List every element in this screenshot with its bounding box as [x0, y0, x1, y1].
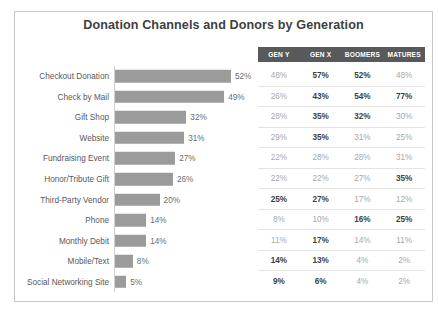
bar-value-label: 14%	[150, 236, 166, 245]
category-label: Gift Shop	[75, 113, 109, 122]
table-cell: 11%	[258, 236, 300, 245]
table-cell: 14%	[258, 256, 300, 265]
bar	[115, 111, 186, 124]
table-row: 8%10%16%25%	[258, 210, 425, 231]
bar	[115, 234, 146, 247]
table-cell: 11%	[383, 236, 425, 245]
category-label: Website	[80, 133, 109, 142]
table-cell: 28%	[342, 153, 384, 162]
table-cell: 25%	[383, 133, 425, 142]
category-label: Fundraising Event	[43, 154, 109, 163]
bar	[115, 214, 146, 227]
table-row: 22%28%28%31%	[258, 148, 425, 169]
chart-row: Phone14%	[15, 210, 255, 231]
table-cell: 27%	[300, 195, 342, 204]
table-cell: 27%	[342, 174, 384, 183]
category-label: Third-Party Vendor	[40, 195, 109, 204]
table-cell: 13%	[300, 256, 342, 265]
table-cell: 22%	[300, 174, 342, 183]
bar	[115, 70, 231, 83]
chart-row: Monthly Debit14%	[15, 230, 255, 251]
table-cell: 35%	[300, 112, 342, 121]
bar-value-label: 32%	[190, 113, 206, 122]
bar-value-label: 5%	[130, 277, 142, 286]
table-cell: 25%	[383, 215, 425, 224]
table-cell: 57%	[300, 71, 342, 80]
table-row: 14%13%4%2%	[258, 251, 425, 272]
table-cell: 35%	[300, 133, 342, 142]
table-cell: 52%	[342, 71, 384, 80]
category-label: Check by Mail	[58, 92, 109, 101]
chart-row: Mobile/Text8%	[15, 251, 255, 272]
category-label: Phone	[85, 216, 109, 225]
chart-row: Honor/Tribute Gift26%	[15, 169, 255, 190]
bar	[115, 173, 173, 186]
table-row: 29%35%31%25%	[258, 128, 425, 149]
bar-value-label: 27%	[179, 154, 195, 163]
table-cell: 48%	[258, 71, 300, 80]
table-cell: 16%	[342, 215, 384, 224]
table-cell: 6%	[300, 277, 342, 286]
table-cell: 12%	[383, 195, 425, 204]
chart-row: Social Networking Site5%	[15, 272, 255, 293]
chart-row: Gift Shop32%	[15, 107, 255, 128]
table-cell: 43%	[300, 92, 342, 101]
table-row: 48%57%52%48%	[258, 66, 425, 87]
table-cell: 14%	[342, 236, 384, 245]
table-cell: 28%	[300, 153, 342, 162]
table-cell: 22%	[258, 153, 300, 162]
bar	[115, 152, 175, 165]
generation-data-table: GEN YGEN XBOOMERSMATURES 48%57%52%48%26%…	[258, 47, 425, 292]
chart-row: Fundraising Event27%	[15, 148, 255, 169]
table-cell: 4%	[342, 256, 384, 265]
table-cell: 54%	[342, 92, 384, 101]
table-cell: 22%	[258, 174, 300, 183]
table-cell: 17%	[300, 236, 342, 245]
table-body: 48%57%52%48%26%43%54%77%28%35%32%30%29%3…	[258, 66, 425, 292]
table-cell: 2%	[383, 277, 425, 286]
table-cell: 17%	[342, 195, 384, 204]
category-label: Honor/Tribute Gift	[44, 175, 109, 184]
table-row: 28%35%32%30%	[258, 107, 425, 128]
table-column-header: MATURES	[383, 51, 425, 58]
table-column-header: BOOMERS	[342, 51, 384, 58]
table-row: 11%17%14%11%	[258, 230, 425, 251]
category-label: Mobile/Text	[68, 257, 109, 266]
chart-row: Third-Party Vendor20%	[15, 189, 255, 210]
bar	[115, 193, 160, 206]
bar	[115, 276, 126, 289]
table-cell: 48%	[383, 71, 425, 80]
table-cell: 10%	[300, 215, 342, 224]
table-cell: 25%	[258, 195, 300, 204]
bar-value-label: 52%	[235, 72, 251, 81]
bar-value-label: 20%	[164, 195, 180, 204]
category-label: Monthly Debit	[59, 236, 109, 245]
bar-value-label: 8%	[137, 257, 149, 266]
table-column-header: GEN X	[300, 51, 342, 58]
table-cell: 28%	[258, 112, 300, 121]
table-cell: 26%	[258, 92, 300, 101]
bar	[115, 91, 224, 104]
table-cell: 35%	[383, 174, 425, 183]
chart-row: Website31%	[15, 128, 255, 149]
bar-value-label: 49%	[228, 92, 244, 101]
table-cell: 77%	[383, 92, 425, 101]
table-column-header: GEN Y	[258, 51, 300, 58]
chart-row: Checkout Donation52%	[15, 66, 255, 87]
table-cell: 30%	[383, 112, 425, 121]
bar	[115, 132, 184, 145]
bar-value-label: 26%	[177, 175, 193, 184]
bar-value-label: 14%	[150, 216, 166, 225]
chart-figure: Donation Channels and Donors by Generati…	[0, 0, 438, 313]
category-label: Social Networking Site	[27, 277, 109, 286]
table-row: 25%27%17%12%	[258, 189, 425, 210]
table-cell: 31%	[342, 133, 384, 142]
bar-chart-area: Checkout Donation52%Check by Mail49%Gift…	[15, 66, 255, 292]
table-cell: 9%	[258, 277, 300, 286]
table-cell: 4%	[342, 277, 384, 286]
table-cell: 29%	[258, 133, 300, 142]
table-cell: 32%	[342, 112, 384, 121]
table-header-row: GEN YGEN XBOOMERSMATURES	[258, 47, 425, 62]
table-cell: 31%	[383, 153, 425, 162]
table-row: 22%22%27%35%	[258, 169, 425, 190]
